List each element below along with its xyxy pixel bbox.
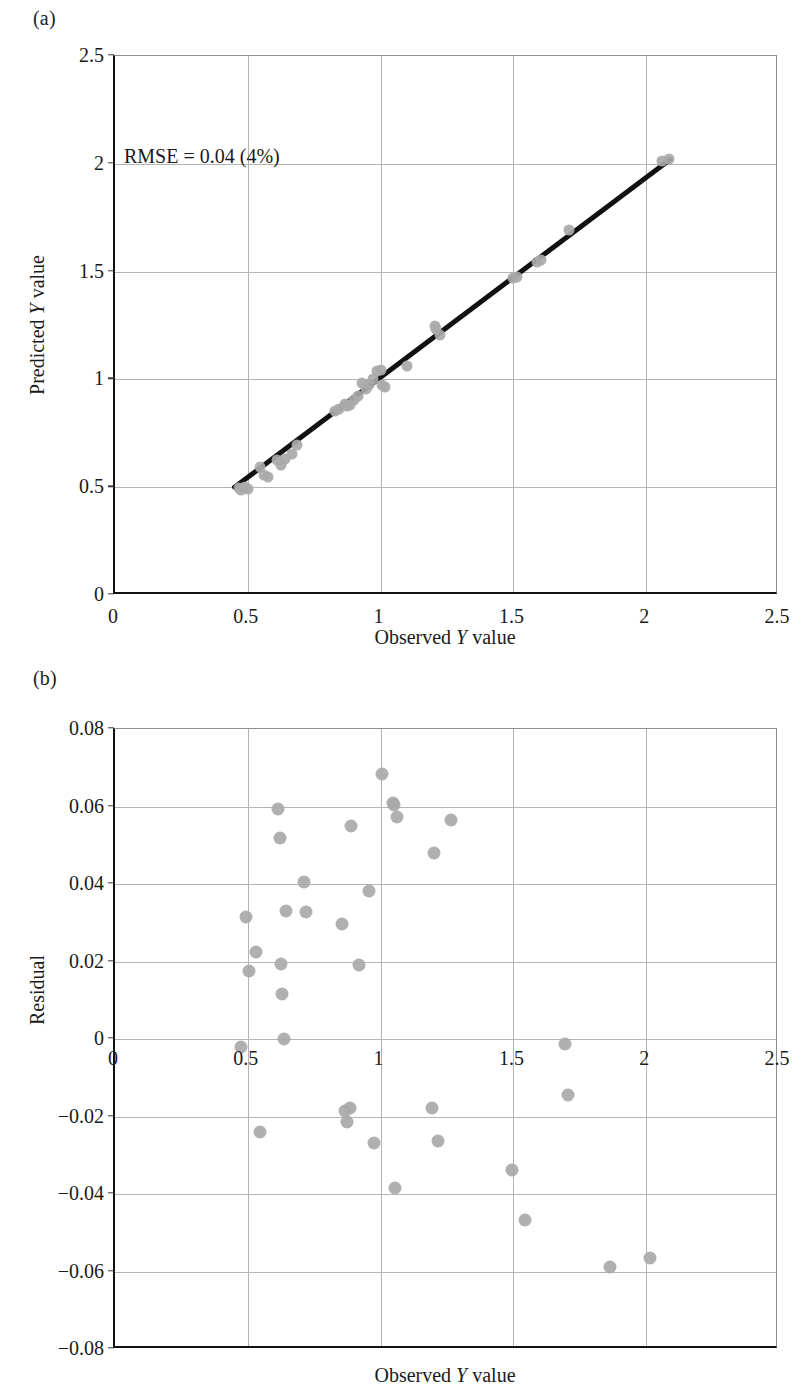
data-point [297,876,310,889]
data-point [275,958,288,971]
gridline-horizontal [115,807,776,808]
y-tick-label: −0.08 [58,1338,111,1358]
x-axis-title-b: Observed Y value [374,1365,515,1385]
gridline-horizontal [115,1272,776,1273]
x-tick-label: 2.5 [765,600,790,626]
y-tick-label: 2.5 [79,45,111,65]
y-tick-label: 0.04 [69,873,111,893]
x-tick-label: 0.5 [233,600,258,626]
y-axis-title-a: Predicted Y value [27,255,47,395]
gridline-vertical [248,729,249,1346]
y-tick-mark [108,1037,114,1038]
data-point [273,831,286,844]
y-axis-title-b-label: Residual [26,955,48,1025]
y-tick-label: 0.5 [79,476,111,496]
y-tick-label: 0.08 [69,718,111,738]
gridline-horizontal [115,1194,776,1195]
fit-line-segment [235,159,671,487]
y-axis-title-a-pre: Predicted [26,314,48,395]
panel-a: (a) 00.511.522.500.511.522.5 RMSE = 0.04… [0,0,811,660]
x-axis-title-a-post: value [467,626,515,648]
data-point [561,1089,574,1102]
scatter-points-b [115,729,776,1346]
data-point [506,1163,519,1176]
gridline-horizontal [115,1117,776,1118]
data-point [387,799,400,812]
data-point [336,917,349,930]
x-tick-label: 1.5 [499,600,524,626]
panel-label-b: (b) [33,668,57,688]
y-tick-label: −0.04 [58,1183,111,1203]
data-point [249,945,262,958]
y-tick-label: 0.06 [69,796,111,816]
y-axis-title-b: Residual [27,955,47,1025]
data-point [240,910,253,923]
y-tick-label: −0.06 [58,1261,111,1281]
data-point [444,814,457,827]
plot-area-a [113,55,777,594]
data-point [253,1126,266,1139]
y-tick-mark [108,485,114,486]
gridline-horizontal [115,884,776,885]
x-axis-title-a-var: Y [456,626,467,648]
data-point [272,803,285,816]
data-point [362,884,375,897]
data-point [389,1182,402,1195]
y-tick-mark [108,1347,114,1348]
y-tick-label: 1.5 [79,261,111,281]
data-point [280,905,293,918]
y-tick-mark [108,270,114,271]
x-tick-label: 1 [374,600,384,626]
x-axis-title-a-pre: Observed [374,626,456,648]
data-point [375,768,388,781]
data-point [367,1136,380,1149]
x-tick-label: 1.5 [499,1042,524,1068]
data-point [427,847,440,860]
y-tick-mark [108,805,114,806]
gridline-vertical [381,729,382,1346]
gridline-vertical [646,729,647,1346]
panel-label-a: (a) [33,8,56,28]
panel-b: (b) −0.08−0.06−0.04−0.0200.020.040.060.0… [0,660,811,1396]
y-tick-mark [108,882,114,883]
x-axis-title-b-pre: Observed [374,1364,456,1386]
y-tick-mark [108,162,114,163]
x-axis-title-b-post: value [467,1364,515,1386]
regression-line [115,56,779,595]
gridline-horizontal [115,962,776,963]
x-tick-label: 2.5 [765,1042,790,1068]
y-tick-mark [108,960,114,961]
x-tick-label: 2 [639,1042,649,1068]
y-tick-label: 0.02 [69,951,111,971]
rmse-annotation: RMSE = 0.04 (4%) [124,146,280,166]
y-tick-mark [108,593,114,594]
gridline-vertical [513,729,514,1346]
data-point [390,810,403,823]
y-tick-mark [108,378,114,379]
data-point [243,965,256,978]
data-point [344,1101,357,1114]
y-tick-mark [108,54,114,55]
x-axis-title-b-var: Y [456,1364,467,1386]
data-point [338,1104,351,1117]
x-tick-label: 0 [108,600,118,626]
y-axis-title-a-post: value [26,255,48,303]
data-point [300,905,313,918]
data-point [519,1214,532,1227]
x-axis-title-a: Observed Y value [374,627,515,647]
y-tick-mark [108,1115,114,1116]
x-tick-label: 1 [374,1042,384,1068]
x-tick-label: 0.5 [233,1042,258,1068]
plot-area-b [113,728,777,1348]
y-tick-mark [108,1192,114,1193]
y-tick-mark [108,1270,114,1271]
x-tick-label: 0 [108,1042,118,1068]
y-axis-title-a-var: Y [26,303,48,314]
x-tick-label: 2 [639,600,649,626]
data-point [426,1101,439,1114]
data-point [276,988,289,1001]
gridline-horizontal [115,1039,776,1040]
data-point [431,1134,444,1147]
data-point [345,819,358,832]
y-tick-label: −0.02 [58,1106,111,1126]
